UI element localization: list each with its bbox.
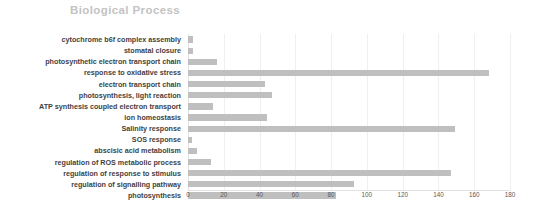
bar [188,137,192,143]
bar-row [188,45,510,56]
category-label: Salinity response [0,124,186,133]
bar [188,159,211,165]
category-label-row: photosynthesis, light reaction [0,90,186,101]
bar-row [188,90,510,101]
category-label: electron transport chain [0,80,186,89]
x-tick-label: 80 [328,191,335,198]
bar-row [188,112,510,123]
category-label: photosynthesis, light reaction [0,91,186,100]
bar-row [188,67,510,78]
category-label-row: stomatal closure [0,45,186,56]
category-label: regulation of ROS metabolic process [0,158,186,167]
category-label: photosynthetic electron transport chain [0,57,186,66]
bar [188,170,451,176]
bar [188,114,267,120]
category-label: SOS response [0,135,186,144]
x-axis-tick-labels: 020406080100120140160180 [188,191,510,205]
bar-row [188,145,510,156]
bar [188,148,197,154]
category-label-row: ion homeostasis [0,112,186,123]
x-tick-label: 180 [505,191,516,198]
bars-region [188,34,510,190]
bar-row [188,123,510,134]
grid-line [510,34,511,190]
bar [188,181,354,187]
bar [188,92,272,98]
bar [188,36,193,42]
x-tick-label: 20 [220,191,227,198]
category-axis: cytochrome b6f complex assemblystomatal … [0,34,186,190]
category-label-row: cytochrome b6f complex assembly [0,34,186,45]
category-label-row: regulation of response to stimulus [0,168,186,179]
bar [188,70,489,76]
chart-title: Biological Process [70,4,180,16]
x-tick-label: 0 [186,191,190,198]
category-label-row: abscisic acid metabolism [0,145,186,156]
bar-row [188,168,510,179]
category-label: regulation of response to stimulus [0,169,186,178]
category-label-row: regulation of signalling pathway [0,179,186,190]
bar-row [188,101,510,112]
category-label: abscisic acid metabolism [0,146,186,155]
category-label-row: SOS response [0,134,186,145]
category-label: response to oxidative stress [0,68,186,77]
category-label-row: electron transport chain [0,79,186,90]
category-label-row: response to oxidative stress [0,67,186,78]
x-tick-label: 140 [433,191,444,198]
category-label: ion homeostasis [0,113,186,122]
category-label-row: Salinity response [0,123,186,134]
x-tick-label: 40 [256,191,263,198]
x-tick-label: 60 [292,191,299,198]
bar-row [188,56,510,67]
category-label: cytochrome b6f complex assembly [0,35,186,44]
bar-row [188,34,510,45]
x-tick-label: 120 [397,191,408,198]
category-label-row: photosynthetic electron transport chain [0,56,186,67]
bar-row [188,134,510,145]
x-tick-label: 100 [362,191,373,198]
category-label: regulation of signalling pathway [0,180,186,189]
bar [188,48,193,54]
x-tick-label: 160 [469,191,480,198]
biological-process-bar-chart: Biological Process cytochrome b6f comple… [0,0,536,215]
plot-area: cytochrome b6f complex assemblystomatal … [0,34,536,190]
category-label-row: regulation of ROS metabolic process [0,157,186,168]
category-label: ATP synthesis coupled electron transport [0,102,186,111]
category-label-row: ATP synthesis coupled electron transport [0,101,186,112]
category-label: stomatal closure [0,46,186,55]
category-label-row: photosynthesis [0,190,186,201]
bar-row [188,179,510,190]
bar [188,81,265,87]
bar [188,59,217,65]
bar [188,103,213,109]
bar-row [188,157,510,168]
bar-row [188,79,510,90]
category-label: photosynthesis [0,191,186,200]
bar [188,126,455,132]
